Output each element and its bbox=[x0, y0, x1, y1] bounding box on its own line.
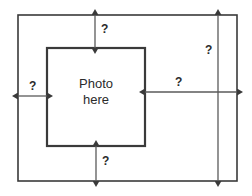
right-span-label: ? bbox=[175, 76, 182, 88]
photo-label-line-2: here bbox=[48, 92, 144, 108]
photo-label-line-1: Photo bbox=[48, 76, 144, 92]
top-margin-label: ? bbox=[101, 23, 108, 35]
right-height-label: ? bbox=[205, 44, 212, 56]
photo-placeholder-label: Photo here bbox=[48, 76, 144, 108]
bottom-margin-label: ? bbox=[102, 155, 109, 167]
photo-frame-diagram: Photo here ? ? ? ? ? bbox=[0, 0, 252, 196]
left-margin-label: ? bbox=[29, 80, 36, 92]
